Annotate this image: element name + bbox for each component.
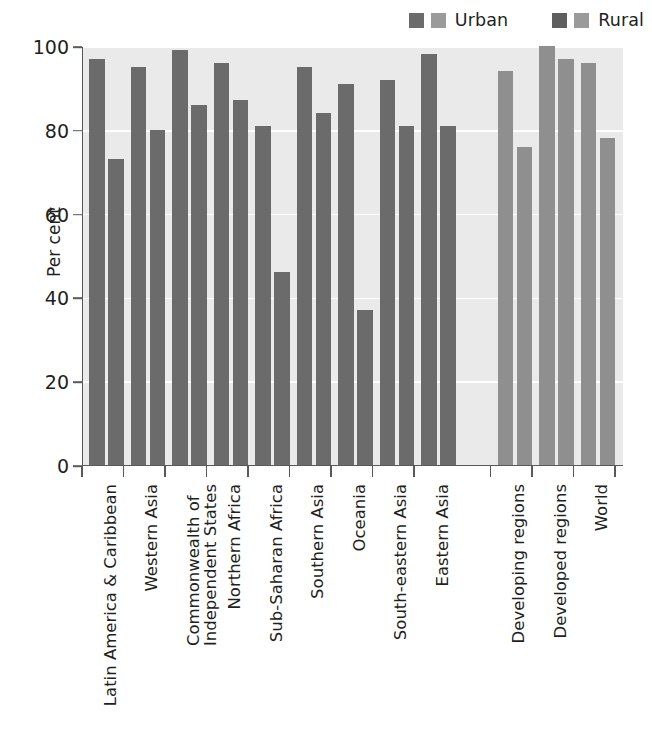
legend-entry-urban: Urban	[409, 10, 508, 30]
bar-urban-western-asia	[131, 67, 147, 465]
bar-urban-developed-regions	[539, 46, 555, 465]
x-tick-mark	[81, 466, 83, 477]
bar-urban-developing-regions	[498, 71, 514, 465]
legend-swatch-dark-icon	[552, 13, 567, 28]
y-axis-label: Per cent	[44, 182, 64, 302]
x-axis-label-world: World	[593, 484, 610, 531]
x-axis-label-line: Independent States	[202, 484, 219, 646]
x-tick-mark	[330, 466, 332, 477]
legend-entry-rural: Rural	[552, 10, 644, 30]
bar-rural-northern-africa	[233, 100, 249, 465]
bar-rural-sub-saharan-africa	[274, 272, 290, 465]
x-axis-label-line: Commonwealth of	[184, 495, 203, 646]
bar-urban-eastern-asia	[421, 54, 437, 465]
y-tick-label: 80	[0, 120, 82, 142]
legend-swatch-group	[552, 13, 589, 28]
bar-urban-world	[581, 63, 597, 465]
legend-label: Rural	[598, 10, 644, 30]
bar-urban-sub-saharan-africa	[255, 126, 271, 465]
x-axis-label-oceania: Oceania	[351, 484, 368, 551]
bar-rural-western-asia	[150, 130, 166, 465]
x-tick-mark	[372, 466, 374, 477]
bar-urban-northern-africa	[214, 63, 230, 465]
bar-rural-commonwealth-of-independent-states	[191, 105, 207, 465]
bar-rural-latin-america-caribbean	[108, 159, 124, 465]
bar-urban-oceania	[338, 84, 354, 465]
legend-label: Urban	[455, 10, 508, 30]
x-axis-label-southern-asia: Southern Asia	[309, 484, 326, 599]
legend-swatch-light-icon	[431, 13, 446, 28]
bar-rural-oceania	[357, 310, 373, 465]
bar-rural-developing-regions	[517, 147, 533, 465]
bar-rural-world	[600, 138, 616, 465]
x-tick-mark	[614, 466, 616, 477]
bar-urban-southern-asia	[297, 67, 313, 465]
x-tick-mark	[490, 466, 492, 477]
x-axis-label-northern-africa: Northern Africa	[226, 484, 243, 610]
x-axis-label-developed-regions: Developed regions	[552, 484, 569, 639]
y-tick-label: 100	[0, 36, 82, 58]
y-tick-label: 60	[0, 204, 82, 226]
bar-rural-eastern-asia	[440, 126, 456, 465]
x-axis-label-south-eastern-asia: South-eastern Asia	[392, 484, 409, 640]
x-tick-mark	[289, 466, 291, 477]
chart-root: UrbanRural Per cent 020406080100Latin Am…	[0, 0, 652, 729]
x-axis-label-latin-america-caribbean: Latin America & Caribbean	[102, 484, 119, 706]
bar-rural-southern-asia	[316, 113, 332, 465]
bar-rural-south-eastern-asia	[399, 126, 415, 465]
x-tick-mark	[413, 466, 415, 477]
bar-rural-developed-regions	[558, 59, 574, 465]
x-tick-mark	[247, 466, 249, 477]
x-tick-mark	[206, 466, 208, 477]
x-axis-label-western-asia: Western Asia	[143, 484, 160, 592]
y-tick-label: 20	[0, 371, 82, 393]
x-tick-mark	[123, 466, 125, 477]
bar-urban-south-eastern-asia	[380, 80, 396, 465]
chart-legend: UrbanRural	[0, 6, 652, 34]
x-axis-label-commonwealth-of-independent-states: Commonwealth ofIndependent States	[185, 484, 220, 646]
x-axis-label-eastern-asia: Eastern Asia	[434, 484, 451, 587]
legend-swatch-dark-icon	[409, 13, 424, 28]
x-tick-mark	[164, 466, 166, 477]
bar-urban-latin-america-caribbean	[89, 59, 105, 465]
y-tick-label: 40	[0, 287, 82, 309]
x-tick-mark	[531, 466, 533, 477]
bar-urban-commonwealth-of-independent-states	[172, 50, 188, 465]
plot-area	[82, 47, 623, 466]
x-axis-label-developing-regions: Developing regions	[510, 484, 527, 643]
x-tick-mark	[573, 466, 575, 477]
legend-swatch-group	[409, 13, 446, 28]
legend-swatch-light-icon	[574, 13, 589, 28]
y-tick-label: 0	[0, 455, 82, 477]
x-axis-label-sub-saharan-africa: Sub-Saharan Africa	[268, 484, 285, 642]
